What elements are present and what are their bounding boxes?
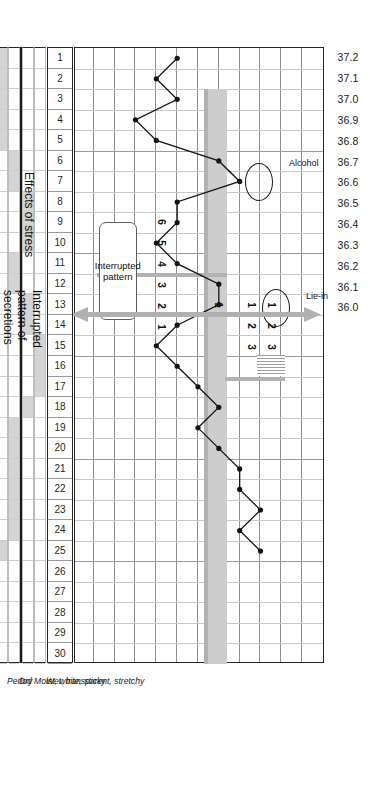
secretion-cell[interactable] xyxy=(23,561,33,582)
secretion-cell[interactable] xyxy=(0,602,7,623)
secretion-cell[interactable] xyxy=(0,130,7,151)
secretion-cell[interactable] xyxy=(23,541,33,562)
secretion-cell[interactable] xyxy=(9,500,19,521)
cycle-day-cell[interactable]: 1 xyxy=(48,48,72,69)
secretion-cell[interactable] xyxy=(0,212,7,233)
cycle-day-cell[interactable]: 16 xyxy=(48,356,72,377)
secretion-cell[interactable] xyxy=(23,130,33,151)
secretion-cell[interactable] xyxy=(9,110,19,131)
secretion-cell[interactable] xyxy=(35,459,45,480)
secretion-cell[interactable] xyxy=(9,151,19,172)
secretion-cell[interactable] xyxy=(0,89,7,110)
secretion-cell[interactable] xyxy=(35,541,45,562)
cycle-day-cell[interactable]: 5 xyxy=(48,130,72,151)
secretion-cell[interactable] xyxy=(9,192,19,213)
cycle-day-cell[interactable]: 27 xyxy=(48,582,72,603)
secretion-cell[interactable] xyxy=(35,397,45,418)
secretion-cell[interactable] xyxy=(9,69,19,90)
secretion-cell[interactable] xyxy=(0,561,7,582)
secretion-cell[interactable] xyxy=(9,397,19,418)
secretion-cell[interactable] xyxy=(35,253,45,274)
secretion-cell[interactable] xyxy=(9,418,19,439)
secretion-cell[interactable] xyxy=(9,48,19,69)
secretion-cell[interactable] xyxy=(23,110,33,131)
cycle-day-cell[interactable]: 12 xyxy=(48,274,72,295)
secretion-cell[interactable] xyxy=(23,48,33,69)
secretion-cell[interactable] xyxy=(0,520,7,541)
secretion-cell[interactable] xyxy=(23,397,33,418)
secretion-cell[interactable] xyxy=(23,151,33,172)
cycle-day-cell[interactable]: 7 xyxy=(48,171,72,192)
secretion-cell[interactable] xyxy=(0,253,7,274)
secretion-cell[interactable] xyxy=(35,233,45,254)
secretion-cell[interactable] xyxy=(23,438,33,459)
secretion-cell[interactable] xyxy=(35,377,45,398)
secretion-cell[interactable] xyxy=(23,520,33,541)
cycle-day-cell[interactable]: 30 xyxy=(48,643,72,664)
secretion-cell[interactable] xyxy=(0,643,7,664)
secretion-cell[interactable] xyxy=(35,171,45,192)
secretion-cell[interactable] xyxy=(9,253,19,274)
secretion-cell[interactable] xyxy=(9,623,19,644)
secretion-cell[interactable] xyxy=(9,561,19,582)
secretion-cell[interactable] xyxy=(0,151,7,172)
secretion-cell[interactable] xyxy=(9,520,19,541)
secretion-cell[interactable] xyxy=(23,500,33,521)
cycle-day-cell[interactable]: 3 xyxy=(48,89,72,110)
secretion-cell[interactable] xyxy=(9,233,19,254)
secretion-cell[interactable] xyxy=(35,520,45,541)
secretion-cell[interactable] xyxy=(9,643,19,664)
secretion-cell[interactable] xyxy=(9,541,19,562)
secretion-cell[interactable] xyxy=(0,459,7,480)
secretion-cell[interactable] xyxy=(35,500,45,521)
secretion-cell[interactable] xyxy=(35,479,45,500)
secretion-cell[interactable] xyxy=(9,602,19,623)
secretion-cell[interactable] xyxy=(23,69,33,90)
secretion-cell[interactable] xyxy=(23,356,33,377)
secretion-cell[interactable] xyxy=(35,561,45,582)
secretion-cell[interactable] xyxy=(35,89,45,110)
secretion-cell[interactable] xyxy=(9,356,19,377)
secretion-cell[interactable] xyxy=(0,171,7,192)
secretion-cell[interactable] xyxy=(0,192,7,213)
secretion-cell[interactable] xyxy=(23,418,33,439)
secretion-cell[interactable] xyxy=(35,643,45,664)
secretion-cell[interactable] xyxy=(0,479,7,500)
cycle-day-cell[interactable]: 20 xyxy=(48,438,72,459)
secretion-cell[interactable] xyxy=(35,212,45,233)
secretion-cell[interactable] xyxy=(0,233,7,254)
secretion-cell[interactable] xyxy=(9,171,19,192)
secretion-cell[interactable] xyxy=(35,418,45,439)
secretion-cell[interactable] xyxy=(0,110,7,131)
secretion-cell[interactable] xyxy=(23,623,33,644)
secretion-cell[interactable] xyxy=(35,623,45,644)
secretion-cell[interactable] xyxy=(35,130,45,151)
secretion-cell[interactable] xyxy=(35,151,45,172)
secretion-cell[interactable] xyxy=(35,582,45,603)
secretion-cell[interactable] xyxy=(35,356,45,377)
secretion-cell[interactable] xyxy=(0,418,7,439)
secretion-cell[interactable] xyxy=(0,69,7,90)
cycle-day-cell[interactable]: 29 xyxy=(48,623,72,644)
secretion-cell[interactable] xyxy=(35,438,45,459)
secretion-cell[interactable] xyxy=(9,459,19,480)
secretion-cell[interactable] xyxy=(23,602,33,623)
secretion-cell[interactable] xyxy=(23,459,33,480)
secretion-cell[interactable] xyxy=(0,438,7,459)
secretion-cell[interactable] xyxy=(9,130,19,151)
secretion-cell[interactable] xyxy=(23,377,33,398)
secretion-cell[interactable] xyxy=(0,541,7,562)
secretion-cell[interactable] xyxy=(0,356,7,377)
secretion-cell[interactable] xyxy=(9,212,19,233)
secretion-cell[interactable] xyxy=(0,397,7,418)
secretion-cell[interactable] xyxy=(23,643,33,664)
secretion-cell[interactable] xyxy=(35,69,45,90)
secretion-cell[interactable] xyxy=(35,110,45,131)
secretion-cell[interactable] xyxy=(23,89,33,110)
secretion-cell[interactable] xyxy=(35,602,45,623)
secretion-cell[interactable] xyxy=(0,623,7,644)
secretion-cell[interactable] xyxy=(35,192,45,213)
secretion-cell[interactable] xyxy=(0,582,7,603)
secretion-cell[interactable] xyxy=(0,500,7,521)
secretion-cell[interactable] xyxy=(23,582,33,603)
